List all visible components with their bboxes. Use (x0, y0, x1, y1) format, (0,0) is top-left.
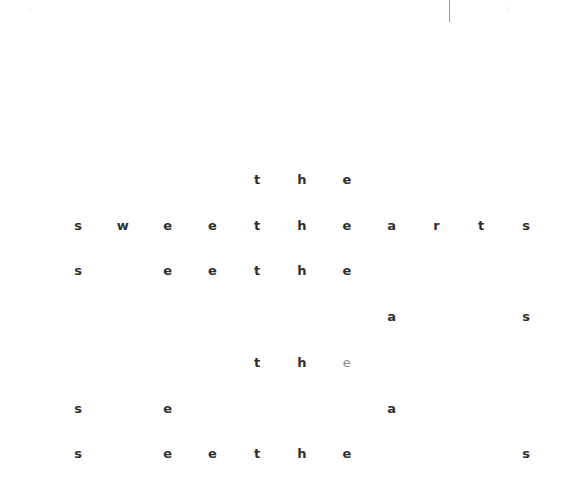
letter-cell: e (337, 261, 357, 281)
letter-cell: s (516, 444, 536, 464)
letter-cell: a (382, 216, 402, 236)
letter-cell: e (202, 261, 222, 281)
letter-cell: s (516, 307, 536, 327)
letter-cell: a (382, 307, 402, 327)
letter-cell: t (247, 216, 267, 236)
letter-cell: e (158, 216, 178, 236)
letter-cell: e (202, 444, 222, 464)
letter-cell: s (516, 216, 536, 236)
letter-grid: thesweetheartsseetheastheseaseethes (0, 0, 588, 496)
letter-cell: h (292, 170, 312, 190)
letter-cell: e (158, 399, 178, 419)
letter-cell: e (337, 444, 357, 464)
letter-cell: e (202, 216, 222, 236)
letter-cell: t (247, 170, 267, 190)
letter-cell: h (292, 216, 312, 236)
letter-cell: e (158, 261, 178, 281)
letter-cell: e (337, 170, 357, 190)
letter-cell: a (382, 399, 402, 419)
letter-cell: s (68, 399, 88, 419)
letter-cell: e (337, 216, 357, 236)
letter-cell: h (292, 261, 312, 281)
letter-cell: t (247, 444, 267, 464)
letter-cell: s (68, 261, 88, 281)
letter-cell: t (471, 216, 491, 236)
letter-cell: t (247, 261, 267, 281)
letter-cell: w (113, 216, 133, 236)
letter-cell: h (292, 444, 312, 464)
letter-cell: h (292, 353, 312, 373)
letter-cell: t (247, 353, 267, 373)
letter-cell: r (426, 216, 446, 236)
letter-cell: s (68, 444, 88, 464)
letter-cell: s (68, 216, 88, 236)
letter-cell: e (158, 444, 178, 464)
letter-cell: e (337, 353, 357, 373)
